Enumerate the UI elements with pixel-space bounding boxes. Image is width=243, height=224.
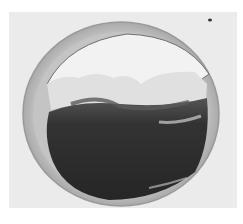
micrograph-photo — [9, 12, 237, 208]
vessel-cross-section-illustration — [9, 12, 237, 208]
specimen-mark — [208, 19, 212, 22]
